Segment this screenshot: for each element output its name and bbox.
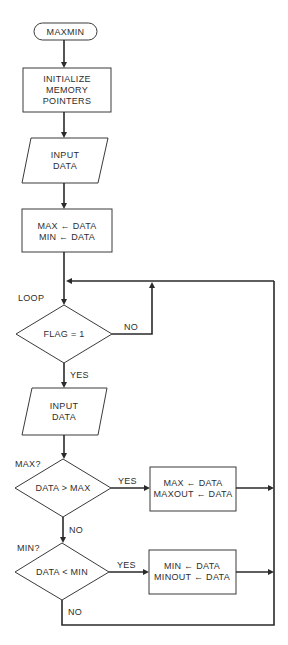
init-max-min-box: MAX ← DATA MIN ← DATA: [22, 209, 112, 252]
arrow-down-icon: [60, 537, 66, 543]
start-label: MAXMIN: [47, 27, 85, 37]
arrow-down-icon: [61, 62, 67, 68]
input1-line-2: DATA: [53, 161, 77, 171]
min-no-label: NO: [68, 607, 82, 617]
assign-min-line-1: MIN ← DATA: [164, 561, 220, 571]
input2-line-2: DATA: [52, 412, 76, 422]
flag-no-label: NO: [124, 322, 138, 332]
max-decision-label: DATA > MAX: [36, 483, 91, 493]
min-yes-label: YES: [117, 560, 136, 570]
start-terminal: MAXMIN: [34, 23, 97, 40]
arrow-left-icon: [66, 278, 72, 284]
min-label: MIN?: [17, 543, 40, 553]
flowchart-canvas: MAXMIN INITIALIZE MEMORY POINTERS INPUT …: [0, 0, 288, 645]
init-line-3: POINTERS: [43, 96, 91, 106]
arrow-down-icon: [61, 453, 67, 459]
assign1-line-1: MAX ← DATA: [37, 221, 96, 231]
assign-max-line-2: MAXOUT ← DATA: [154, 489, 233, 499]
input-data-io-1: INPUT DATA: [22, 138, 108, 183]
flag-yes-label: YES: [70, 370, 89, 380]
max-label: MAX?: [15, 459, 41, 469]
arrow-down-icon: [61, 203, 67, 209]
arrow-down-icon: [61, 382, 67, 388]
input-data-io-2: INPUT DATA: [22, 388, 107, 435]
init-line-2: MEMORY: [46, 85, 88, 95]
input1-line-1: INPUT: [51, 150, 80, 160]
input2-line-1: INPUT: [50, 401, 79, 411]
init-process-box: INITIALIZE MEMORY POINTERS: [23, 68, 111, 112]
flag-decision: FLAG = 1: [16, 305, 112, 363]
update-min-box: MIN ← DATA MINOUT ← DATA: [149, 550, 236, 594]
update-max-box: MAX ← DATA MAXOUT ← DATA: [150, 467, 236, 511]
max-no-label: NO: [69, 525, 83, 535]
assign-max-line-1: MAX ← DATA: [163, 478, 222, 488]
min-decision-label: DATA < MIN: [36, 567, 88, 577]
arrow-right-icon: [143, 569, 149, 575]
arrow-right-icon: [268, 569, 274, 575]
init-line-1: INITIALIZE: [43, 74, 91, 84]
arrow-down-icon: [61, 132, 67, 138]
max-yes-label: YES: [118, 476, 137, 486]
loop-label: LOOP: [18, 293, 44, 303]
assign1-line-2: MIN ← DATA: [39, 232, 95, 242]
flag-decision-label: FLAG = 1: [43, 329, 84, 339]
arrow-up-icon: [149, 282, 155, 288]
arrow-right-icon: [144, 485, 150, 491]
arrow-right-icon: [268, 485, 274, 491]
assign-min-line-2: MINOUT ← DATA: [154, 572, 230, 582]
arrow-down-icon: [61, 299, 67, 305]
